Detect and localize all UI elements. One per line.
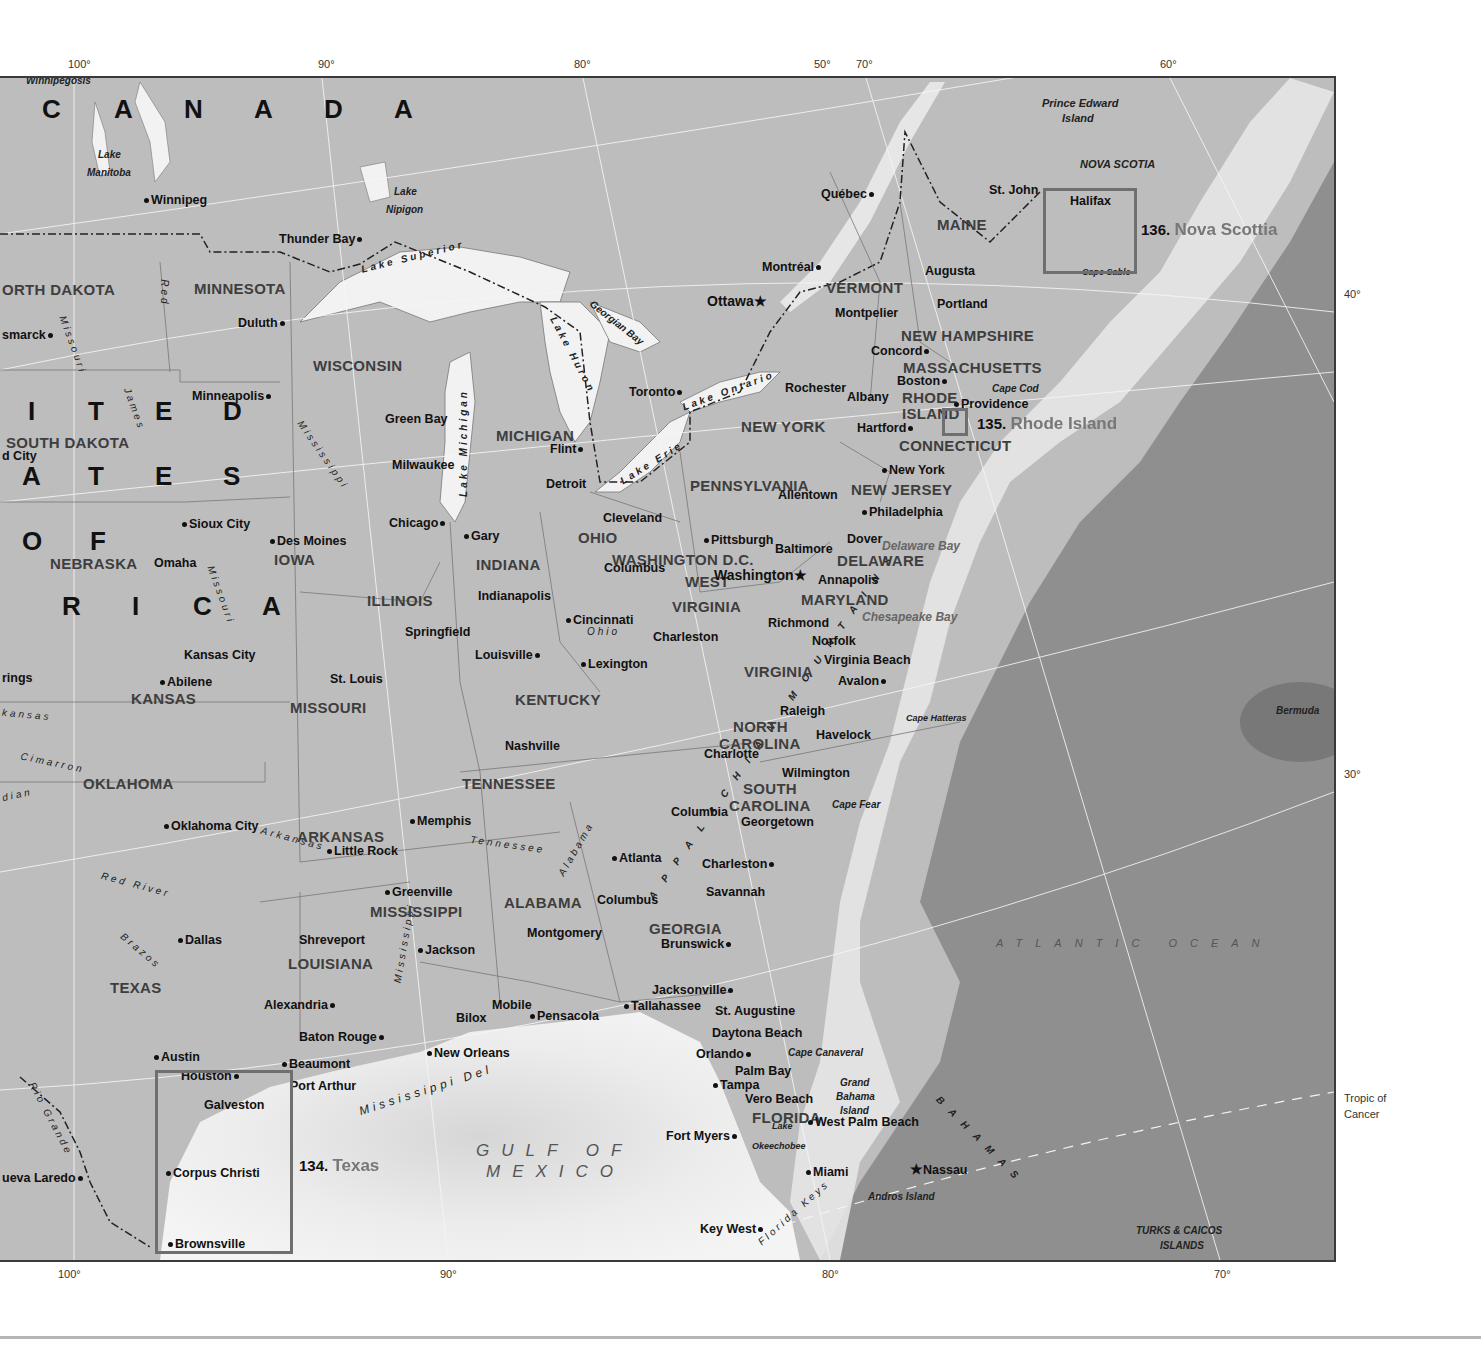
label-lake-okeechobee: Okeechobee [752,1142,806,1151]
state-nebraska: NEBRASKA [50,556,137,571]
city-sioux-city: Sioux City [180,518,250,531]
city-greenville: Greenville [383,886,452,899]
country-usa-letter: E [155,398,172,424]
city-ottawa: Ottawa★ [707,294,767,308]
label-grand-bahama: Grand [840,1078,869,1088]
lon-tick-top-100: 100° [68,58,91,70]
city-rochester: Rochester [785,382,846,395]
city-tallahassee: Tallahassee [622,1000,701,1013]
city-charlotte: Charlotte [704,748,759,761]
lon-tick-top-50: 50° [814,58,831,70]
state-minnesota: MINNESOTA [194,281,286,296]
city-alexandria: Alexandria [264,999,337,1012]
country-usa-letter: C [193,593,212,619]
label-turks-caicos: TURKS & CAICOS [1136,1226,1222,1236]
city-baltimore: Baltimore [775,543,833,556]
city-richmond: Richmond [768,617,829,630]
city-nassau: ★Nassau [910,1162,967,1177]
country-usa-letter: I [28,398,35,424]
lat-tick-30: 30° [1344,768,1361,780]
city-st-louis: St. Louis [330,673,383,686]
state-texas: TEXAS [110,980,162,995]
capital-star-icon: ★ [794,567,807,583]
city-jackson: Jackson [416,944,475,957]
state-maryland: MARYLAND [801,592,889,607]
inset-box-texas[interactable] [155,1070,293,1254]
state-michigan: MICHIGAN [496,428,574,443]
state-rhode-island: RHODE [902,390,958,405]
city-miami: Miami [804,1166,848,1179]
city-philadelphia: Philadelphia [860,506,943,519]
inset-label-nova-scotia[interactable]: 136. Nova Scottia [1141,220,1277,240]
city-mobile: Mobile [492,999,532,1012]
state-south-carolina: CAROLINA [729,798,811,813]
state-west-virginia: VIRGINIA [672,599,741,614]
city-washington: Washington★ [714,568,807,582]
city-toronto: Toronto [629,386,684,399]
map-frame: C A N A D A I T E D A T E S O F R I C A … [0,76,1336,1262]
inset-box-rhode-island[interactable] [942,408,968,436]
city-jacksonville: Jacksonville [652,984,735,997]
city-charleston-sc: Charleston [702,858,776,871]
state-illinois: ILLINOIS [367,593,433,608]
city-nuevo-laredo: ueva Laredo [2,1172,85,1185]
label-bermuda: Bermuda [1276,706,1319,716]
inset-box-nova-scotia[interactable] [1043,188,1137,274]
city-duluth: Duluth [238,317,287,330]
label-turks-caicos: ISLANDS [1160,1241,1204,1251]
state-north-dakota: ORTH DAKOTA [2,282,115,297]
inset-label-texas[interactable]: 134. Texas [299,1156,379,1176]
city-norfolk: Norfolk [812,635,856,648]
state-massachusetts: MASSACHUSETTS [903,360,1042,375]
state-connecticut: CONNECTICUT [899,438,1011,453]
city-virginia-beach: Virginia Beach [824,654,911,667]
city-indianapolis: Indianapolis [478,590,551,603]
inset-label-rhode-island[interactable]: 135. Rhode Island [977,414,1117,434]
capital-star-icon: ★ [910,1161,923,1177]
capital-star-icon: ★ [754,293,767,309]
country-usa-letter: O [22,528,42,554]
city-charleston-wv: Charleston [653,631,718,644]
city-montreal: Montréal [762,261,823,274]
country-usa-letter: R [62,593,81,619]
city-new-orleans: New Orleans [425,1047,510,1060]
city-augusta: Augusta [925,265,975,278]
river-ohio: Ohio [587,627,620,637]
city-des-moines: Des Moines [268,535,346,548]
country-usa-letter: A [22,463,41,489]
state-wisconsin: WISCONSIN [313,358,402,373]
city-wilmington: Wilmington [782,767,850,780]
city-baton-rouge: Baton Rouge [299,1031,386,1044]
city-dallas: Dallas [176,934,222,947]
state-arkansas: ARKANSAS [297,829,384,844]
city-havelock: Havelock [816,729,871,742]
state-new-hampshire: NEW HAMPSHIRE [901,328,1034,343]
city-tampa: Tampa [711,1079,759,1092]
city-fort-myers: Fort Myers [666,1130,739,1143]
lat-tick-40: 40° [1344,288,1361,300]
city-daytona-beach: Daytona Beach [712,1027,802,1040]
country-usa-letter: I [132,593,139,619]
city-winnipeg: Winnipeg [142,194,207,207]
city-columbus-ga: Columbus [597,894,658,907]
state-kentucky: KENTUCKY [515,692,601,707]
city-lexington: Lexington [579,658,648,671]
state-new-york: NEW YORK [741,419,826,434]
lon-tick-top-90: 90° [318,58,335,70]
country-canada-letter: A [254,96,273,122]
city-port-arthur: Port Arthur [290,1080,356,1093]
city-nashville: Nashville [505,740,560,753]
city-west-palm-beach: West Palm Beach [806,1116,919,1129]
city-st-john: St. John [989,184,1038,197]
state-iowa: IOWA [274,552,315,567]
country-usa-letter: S [223,463,240,489]
city-palm-bay: Palm Bay [735,1065,791,1078]
city-kansas-city: Kansas City [184,649,256,662]
city-springfield: Springfield [405,626,470,639]
city-bismarck: smarck [2,329,55,342]
state-new-jersey: NEW JERSEY [851,482,952,497]
country-usa-letter: T [88,398,104,424]
city-oklahoma-city: Oklahoma City [162,820,259,833]
lon-tick-top-60: 60° [1160,58,1177,70]
state-virginia: VIRGINIA [744,664,813,679]
